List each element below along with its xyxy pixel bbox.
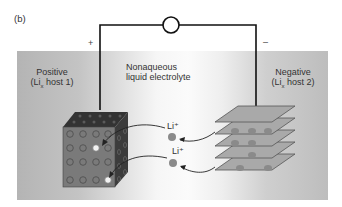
positive-label-line1: Positive <box>20 67 84 77</box>
positive-electrode-label: Positive (Lix host 1) <box>20 67 84 91</box>
lithium-ion <box>169 159 177 167</box>
negative-host-layers <box>215 106 295 171</box>
positive-label-line2: (Lix host 1) <box>20 77 84 91</box>
electrolyte-label-line2: liquid electrolyte <box>126 72 216 82</box>
ion-label-upper: Li⁺ <box>167 121 179 131</box>
ion-label-lower: Li⁺ <box>172 146 184 156</box>
intercalated-ion <box>93 145 100 152</box>
intercalated-ion <box>105 177 112 184</box>
lithium-ion <box>168 133 176 141</box>
electrolyte-label: Nonaqueous liquid electrolyte <box>126 62 216 82</box>
negative-terminal-sign: – <box>263 37 268 47</box>
electrolyte-label-line1: Nonaqueous <box>126 62 216 72</box>
voltmeter-icon <box>163 17 179 33</box>
positive-host-cube <box>63 112 128 187</box>
negative-electrode-label: Negative (Lix host 2) <box>258 67 328 91</box>
negative-label-line2: (Lix host 2) <box>258 77 328 91</box>
positive-terminal-sign: + <box>88 38 93 48</box>
circuit-and-electrodes <box>0 0 342 207</box>
negative-label-line1: Negative <box>258 67 328 77</box>
